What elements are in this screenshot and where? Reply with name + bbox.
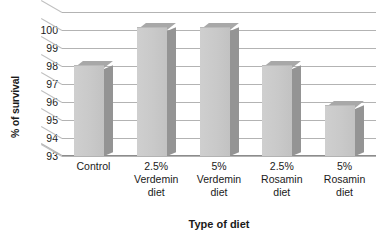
bar-front-face bbox=[325, 105, 355, 156]
x-axis-tick-label: 5% Rosamin diet bbox=[313, 160, 376, 199]
bar-side-face bbox=[104, 65, 113, 156]
bar-series bbox=[62, 12, 376, 156]
bar-front-face bbox=[262, 65, 292, 156]
bar-front-face bbox=[200, 27, 230, 156]
y-axis-title-text: % of survival bbox=[9, 76, 21, 138]
bar-front-face bbox=[74, 65, 104, 156]
bar-front-face bbox=[137, 27, 167, 156]
bar bbox=[262, 66, 292, 156]
bar bbox=[325, 106, 355, 156]
bar-side-face bbox=[167, 28, 176, 156]
y-axis-title: % of survival bbox=[4, 52, 26, 162]
bar-chart: % of survival 93949596979899100 Control2… bbox=[0, 0, 379, 241]
bar-side-face bbox=[230, 28, 239, 156]
x-axis-tick-label: 2.5% Rosamin diet bbox=[250, 160, 313, 199]
bar bbox=[200, 28, 230, 156]
gridline bbox=[62, 156, 376, 157]
x-axis-tick-label: 2.5% Verdemin diet bbox=[125, 160, 188, 199]
plot-area bbox=[62, 12, 376, 156]
bar bbox=[74, 66, 104, 156]
x-axis-tick-label: Control bbox=[62, 160, 125, 173]
x-axis-title: Type of diet bbox=[62, 218, 376, 230]
x-axis-tick-labels: Control2.5% Verdemin diet5% Verdemin die… bbox=[62, 160, 376, 216]
bar bbox=[137, 28, 167, 156]
bar-side-face bbox=[292, 65, 301, 156]
bar-side-face bbox=[355, 105, 364, 156]
x-axis-tick-label: 5% Verdemin diet bbox=[188, 160, 251, 199]
